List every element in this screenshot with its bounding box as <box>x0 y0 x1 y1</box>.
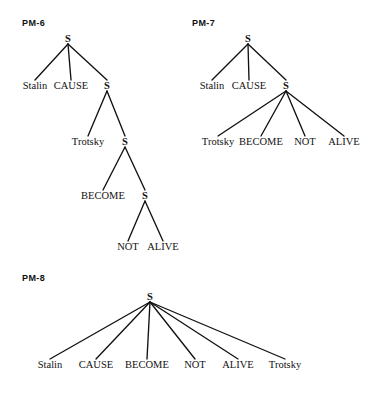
tree-leaf-stalin: Stalin <box>23 80 48 91</box>
tree-pm-8: PM-8SStalinCAUSEBECOMENOTALIVETrotsky <box>22 273 302 370</box>
tree-leaf-trotsky: Trotsky <box>202 136 235 147</box>
tree-branch <box>50 302 150 359</box>
tree-branch <box>125 147 145 190</box>
trees-group: PM-6SStalinCAUSESTrotskySBECOMESNOTALIVE… <box>22 18 360 370</box>
tree-branch <box>261 91 286 136</box>
tree-node-s: S <box>283 80 289 91</box>
tree-label-pm-6: PM-6 <box>22 18 45 28</box>
tree-branch <box>248 44 286 80</box>
tree-node-s: S <box>104 80 110 91</box>
tree-leaf-cause: CAUSE <box>232 80 266 91</box>
tree-branch <box>107 91 125 136</box>
tree-leaf-not: NOT <box>117 241 139 252</box>
tree-branch <box>103 147 125 190</box>
tree-branch <box>150 302 238 359</box>
tree-leaf-cause: CAUSE <box>79 359 113 370</box>
tree-node-s: S <box>147 291 153 302</box>
tree-branch <box>128 201 145 241</box>
tree-leaf-not: NOT <box>184 359 206 370</box>
tree-leaf-trotsky: Trotsky <box>72 136 105 147</box>
tree-node-s: S <box>122 136 128 147</box>
tree-pm-7: PM-7SStalinCAUSESTrotskyBECOMENOTALIVE <box>192 18 360 147</box>
tree-pm-6: PM-6SStalinCAUSESTrotskySBECOMESNOTALIVE <box>22 18 179 252</box>
tree-leaf-trotsky: Trotsky <box>269 359 302 370</box>
tree-leaf-become: BECOME <box>81 190 125 201</box>
tree-leaf-alive: ALIVE <box>328 136 360 147</box>
tree-label-pm-7: PM-7 <box>192 18 215 28</box>
tree-branch <box>145 201 163 241</box>
tree-leaf-cause: CAUSE <box>54 80 88 91</box>
tree-branch <box>150 302 285 359</box>
tree-branch <box>68 44 107 80</box>
tree-leaf-alive: ALIVE <box>147 241 179 252</box>
figure-page: PM-6SStalinCAUSESTrotskySBECOMESNOTALIVE… <box>0 0 379 398</box>
tree-leaf-stalin: Stalin <box>38 359 63 370</box>
tree-branch <box>218 91 286 136</box>
tree-node-s: S <box>65 33 71 44</box>
tree-branch <box>248 44 249 80</box>
edges-pm-8 <box>50 302 285 359</box>
tree-branch <box>68 44 71 80</box>
tree-leaf-become: BECOME <box>125 359 169 370</box>
tree-branch <box>96 302 150 359</box>
tree-diagram-canvas: PM-6SStalinCAUSESTrotskySBECOMESNOTALIVE… <box>0 0 379 398</box>
tree-branch <box>147 302 150 359</box>
tree-branch <box>150 302 195 359</box>
tree-branch <box>88 91 107 136</box>
tree-leaf-not: NOT <box>294 136 316 147</box>
tree-branch <box>35 44 68 80</box>
tree-leaf-stalin: Stalin <box>200 80 225 91</box>
tree-branch <box>286 91 344 136</box>
tree-leaf-alive: ALIVE <box>222 359 254 370</box>
tree-leaf-become: BECOME <box>239 136 283 147</box>
tree-label-pm-8: PM-8 <box>22 273 45 283</box>
tree-node-s: S <box>142 190 148 201</box>
tree-node-s: S <box>245 33 251 44</box>
tree-branch <box>212 44 248 80</box>
